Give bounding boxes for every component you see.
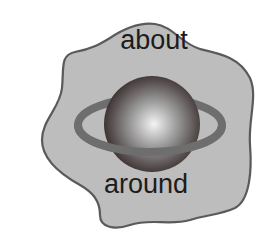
planet-sphere-shape xyxy=(104,76,200,172)
label-around: around xyxy=(104,169,188,199)
label-about: about xyxy=(120,25,188,55)
diagram-canvas: about around xyxy=(0,0,275,240)
